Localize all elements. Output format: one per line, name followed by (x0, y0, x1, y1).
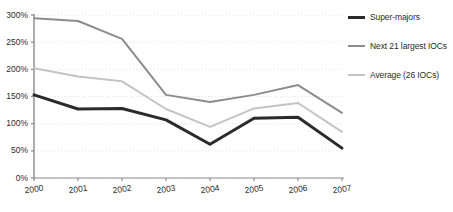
y-axis-tick-label: 300% (0, 10, 28, 20)
legend-item-label: Super-majors (370, 12, 420, 22)
line-chart: 0%50%100%150%200%250%300% 20002001200220… (0, 0, 453, 212)
legend-item-label: Next 21 largest IOCs (370, 41, 447, 51)
legend-line-swatch-icon (348, 45, 365, 47)
y-axis-tick-label: 50% (0, 145, 28, 155)
legend-item-super-majors[interactable]: Super-majors (348, 6, 453, 28)
legend-line-swatch-icon (348, 16, 365, 19)
gridlines (34, 15, 342, 178)
y-axis-tick-label: 200% (0, 64, 28, 74)
y-axis-tick-label: 100% (0, 118, 28, 128)
chart-legend: Super-majors Next 21 largest IOCs Averag… (348, 6, 453, 93)
series-line-average-26-iocs (34, 68, 342, 132)
series-line-next-21-largest-iocs (34, 18, 342, 113)
y-axis-tick-label: 0% (0, 173, 28, 183)
y-axis-tick-label: 250% (0, 37, 28, 47)
legend-line-swatch-icon (348, 74, 365, 76)
axis-lines (34, 14, 344, 178)
data-series-group (34, 18, 342, 148)
legend-item-average-26-iocs[interactable]: Average (26 IOCs) (348, 64, 453, 86)
legend-item-label: Average (26 IOCs) (370, 70, 439, 80)
y-axis-tick-label: 150% (0, 91, 28, 101)
legend-item-next-21-largest-iocs[interactable]: Next 21 largest IOCs (348, 35, 453, 57)
